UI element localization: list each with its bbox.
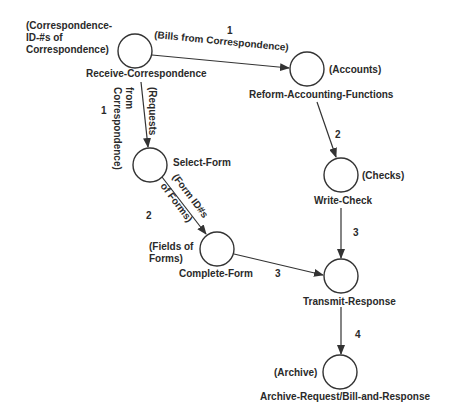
edge-reform-to-write: [317, 102, 336, 157]
node-labels: Receive-Correspondence Reform-Accounting…: [86, 68, 430, 402]
edge-label-requests-line1: (Requests: [147, 87, 158, 136]
step-select-complete: 2: [146, 210, 152, 221]
edge-label-requests-line2: from: [124, 87, 135, 109]
label-reform-accounting-functions: Reform-Accounting-Functions: [249, 89, 394, 100]
data-fields-line1: (Fields of: [149, 241, 194, 252]
data-receive-line1: (Correspondence-: [26, 20, 112, 31]
label-write-check: Write-Check: [314, 195, 373, 206]
step-complete-transmit: 3: [275, 268, 281, 279]
node-archive: [323, 355, 357, 389]
label-select-form: Select-Form: [173, 157, 231, 168]
node-select-form: [133, 148, 167, 182]
step-receive-reform: 1: [227, 25, 233, 36]
data-archive: (Archive): [274, 367, 317, 378]
data-accounts: (Accounts): [329, 64, 381, 75]
label-complete-form: Complete-Form: [179, 268, 253, 279]
label-archive: Archive-Request/Bill-and-Response: [260, 391, 430, 402]
step-receive-select: 1: [101, 105, 107, 116]
node-transmit-response: [324, 259, 358, 293]
edge-label-requests-line3: Correspondence): [112, 87, 123, 170]
edge-receive-to-reform: [152, 55, 289, 68]
process-diagram: Receive-Correspondence Reform-Accounting…: [0, 0, 456, 416]
node-receive-correspondence: [118, 34, 152, 68]
step-transmit-archive: 4: [355, 329, 361, 340]
step-write-transmit: 3: [353, 227, 359, 238]
node-complete-form: [200, 232, 234, 266]
data-fields-line2: Forms): [149, 253, 183, 264]
data-checks: (Checks): [362, 170, 404, 181]
node-write-check: [324, 158, 358, 192]
node-reform-accounting-functions: [290, 52, 324, 86]
data-receive-line2: ID-#s of: [26, 32, 63, 43]
step-reform-write: 2: [335, 129, 341, 140]
edge-label-bills: (Bills from Correspondence): [154, 29, 289, 53]
label-receive-correspondence: Receive-Correspondence: [86, 68, 207, 79]
data-receive-line3: Correspondence): [26, 44, 109, 55]
label-transmit-response: Transmit-Response: [303, 296, 396, 307]
edge-receive-to-select: [141, 82, 148, 147]
